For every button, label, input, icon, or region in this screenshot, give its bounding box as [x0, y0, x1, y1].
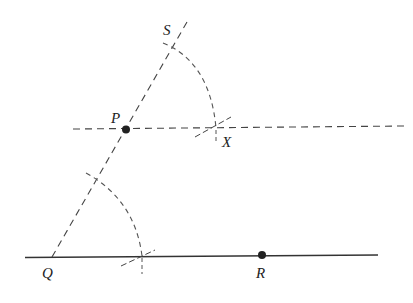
label-s: S	[163, 22, 171, 38]
construction-diagram: S P X Q R	[0, 0, 413, 303]
label-r: R	[255, 265, 265, 281]
arc-mark-lower	[121, 250, 155, 266]
line-qs	[52, 22, 187, 257]
arc-upper	[163, 43, 216, 128]
arc-lower	[86, 173, 142, 256]
line-qr	[25, 255, 378, 258]
point-p	[122, 126, 130, 134]
point-r	[258, 251, 266, 259]
label-p: P	[110, 110, 120, 126]
label-q: Q	[42, 265, 53, 281]
label-x: X	[221, 134, 232, 150]
